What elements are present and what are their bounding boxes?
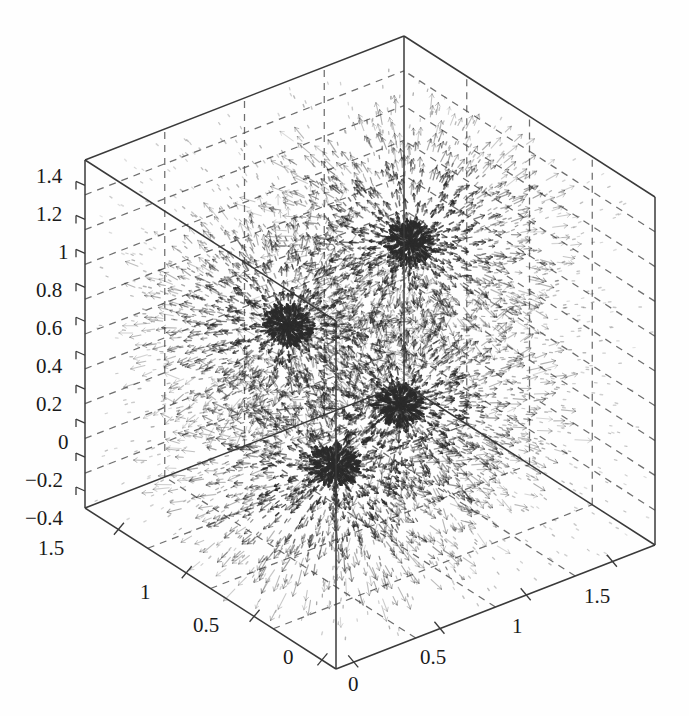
z-tick-label-5: 0.4 <box>36 354 62 379</box>
z-tick-label-7: 0 <box>58 430 69 455</box>
x-tick-label-0: 0 <box>348 672 359 697</box>
y-tick-label-2: 0.5 <box>193 613 219 638</box>
x-tick-label-1: 0.5 <box>420 645 446 670</box>
x-tick-label-3: 1.5 <box>584 584 610 609</box>
vector-arrows-group <box>95 69 653 640</box>
y-tick-label-3: 0 <box>283 645 294 670</box>
z-tick-label-6: 0.2 <box>36 392 62 417</box>
z-tick-label-0: 1.4 <box>36 164 62 189</box>
z-tick-label-8: −0.2 <box>25 468 63 493</box>
z-tick-label-4: 0.6 <box>36 316 62 341</box>
z-tick-label-1: 1.2 <box>36 202 62 227</box>
y-tick-label-0: 1.5 <box>38 536 64 561</box>
z-tick-label-9: −0.4 <box>25 506 63 531</box>
z-tick-label-2: 1 <box>58 240 69 265</box>
figure-canvas: 1.41.210.80.60.40.20−0.2−0.4 1.510.50 00… <box>0 0 689 716</box>
y-tick-label-1: 1 <box>140 580 151 605</box>
z-tick-label-3: 0.8 <box>36 278 62 303</box>
x-tick-label-2: 1 <box>512 614 523 639</box>
